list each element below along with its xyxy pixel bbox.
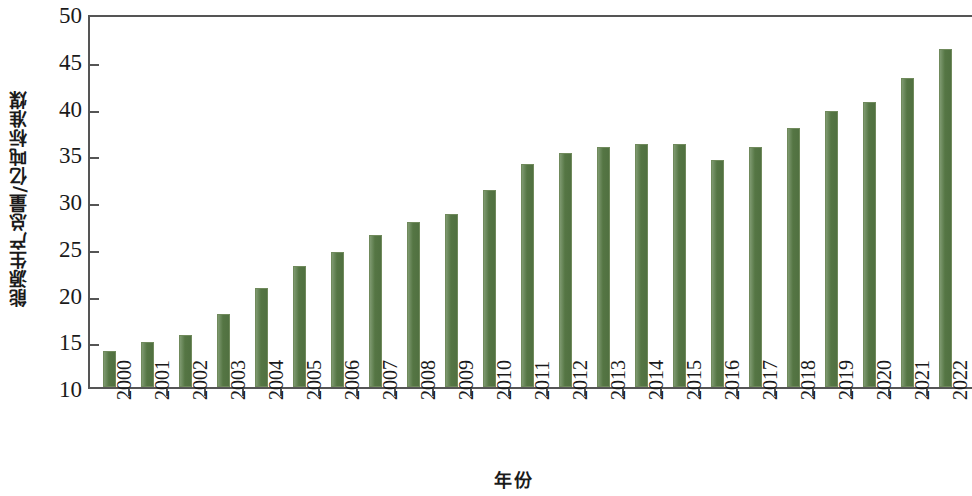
x-axis-tick-label: 2007 [361, 398, 385, 460]
x-axis-tick-label: 2018 [779, 398, 803, 460]
y-axis-tick-mark [90, 64, 99, 66]
x-axis-tick-label-text: 2007 [380, 360, 400, 400]
bar [939, 49, 952, 387]
x-axis-tick-label-text: 2003 [228, 360, 248, 400]
x-axis-tick-label: 2009 [437, 398, 461, 460]
x-axis-tick-label-text: 2005 [304, 360, 324, 400]
y-axis-tick-mark [90, 251, 99, 253]
y-axis-tick-mark [90, 204, 99, 206]
bar [559, 153, 572, 387]
bar [901, 78, 914, 387]
x-axis-tick-label-text: 2008 [418, 360, 438, 400]
y-axis-tick-mark [90, 344, 99, 346]
x-axis-tick-label-text: 2018 [798, 360, 818, 400]
x-axis-tick-label-text: 2016 [722, 360, 742, 400]
x-axis-tick-label: 2012 [551, 398, 575, 460]
x-axis-tick-label: 2021 [893, 398, 917, 460]
y-axis-tick-label: 50 [12, 4, 82, 27]
x-axis-tick-label: 2022 [931, 398, 955, 460]
x-axis-tick-label: 2011 [513, 398, 537, 460]
x-axis-tick-label: 2001 [133, 398, 157, 460]
bar [673, 144, 686, 387]
x-axis-tick-label-text: 2014 [646, 360, 666, 400]
x-axis-tick-label: 2020 [855, 398, 879, 460]
bar [521, 164, 534, 387]
x-axis-tick-label-text: 2022 [950, 360, 970, 400]
x-axis-title: 年份 [0, 466, 972, 492]
y-axis-tick-label: 35 [12, 144, 82, 167]
y-axis-tick-label: 40 [12, 97, 82, 120]
x-axis-tick-label-text: 2013 [608, 360, 628, 400]
x-axis-tick-label: 2008 [399, 398, 423, 460]
bar [825, 111, 838, 387]
x-axis-tick-label: 2002 [171, 398, 195, 460]
x-axis-tick-label: 2003 [209, 398, 233, 460]
bar [749, 147, 762, 387]
x-axis-tick-label: 2006 [323, 398, 347, 460]
x-axis-tick-label: 2013 [589, 398, 613, 460]
x-axis-tick-label: 2014 [627, 398, 651, 460]
x-axis-tick-label-text: 2002 [190, 360, 210, 400]
bar [787, 128, 800, 387]
x-axis-tick-label-text: 2021 [912, 360, 932, 400]
x-axis-tick-label-text: 2019 [836, 360, 856, 400]
plot-area [88, 15, 972, 389]
x-axis-tick-label-text: 2010 [494, 360, 514, 400]
bar [483, 190, 496, 387]
bar-chart-figure: 能源生产总量/亿吨标准煤 101520253035404550 20002001… [0, 0, 972, 496]
x-axis-tick-label-text: 2015 [684, 360, 704, 400]
y-axis-tick-mark [90, 298, 99, 300]
x-axis-tick-label: 2005 [285, 398, 309, 460]
x-axis-tick-label: 2000 [95, 398, 119, 460]
y-axis-tick-label: 15 [12, 331, 82, 354]
x-axis-tick-label-text: 2006 [342, 360, 362, 400]
bar [597, 147, 610, 387]
y-axis-tick-label: 10 [12, 378, 82, 401]
x-axis-tick-label-text: 2012 [570, 360, 590, 400]
x-axis-tick-label: 2016 [703, 398, 727, 460]
x-axis-tick-label: 2004 [247, 398, 271, 460]
x-axis-tick-label: 2017 [741, 398, 765, 460]
x-axis-tick-label-text: 2000 [114, 360, 134, 400]
x-axis-tick-label-text: 2017 [760, 360, 780, 400]
y-axis-tick-mark [90, 157, 99, 159]
x-axis-title-text: 年份 [494, 470, 534, 491]
y-axis-tick-label: 45 [12, 50, 82, 73]
bar [635, 144, 648, 387]
x-axis-tick-label-text: 2001 [152, 360, 172, 400]
x-axis-tick-label: 2010 [475, 398, 499, 460]
bar [711, 160, 724, 387]
x-axis-tick-label: 2015 [665, 398, 689, 460]
y-axis-tick-label: 30 [12, 191, 82, 214]
x-axis-tick-label-text: 2009 [456, 360, 476, 400]
bar [863, 102, 876, 387]
y-axis-tick-mark [90, 111, 99, 113]
x-axis-tick-label-text: 2004 [266, 360, 286, 400]
y-axis-tick-label: 25 [12, 237, 82, 260]
x-axis-tick-label: 2019 [817, 398, 841, 460]
x-axis-tick-label-text: 2011 [532, 361, 552, 400]
y-axis-tick-label: 20 [12, 284, 82, 307]
x-axis-tick-label-text: 2020 [874, 360, 894, 400]
